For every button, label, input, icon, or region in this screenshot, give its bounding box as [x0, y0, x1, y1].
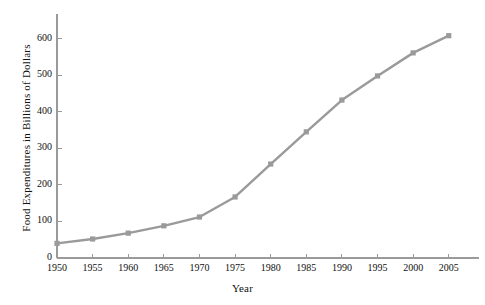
x-tick-label: 1990: [322, 262, 362, 273]
x-tick-label: 1975: [215, 262, 255, 273]
data-point-marker: [232, 194, 237, 199]
x-tick-label: 1970: [179, 262, 219, 273]
x-tick-label: 2005: [429, 262, 469, 273]
data-point-marker: [90, 236, 95, 241]
data-point-marker: [446, 33, 451, 38]
x-tick-label: 1950: [37, 262, 77, 273]
plot-area: [0, 0, 485, 305]
data-markers: [54, 33, 451, 246]
data-series: [57, 36, 449, 244]
x-tick-label: 1960: [108, 262, 148, 273]
data-point-marker: [339, 97, 344, 102]
tick-marks: [57, 39, 449, 258]
data-point-marker: [411, 50, 416, 55]
data-point-marker: [54, 241, 59, 246]
data-point-marker: [126, 231, 131, 236]
x-tick-label: 1995: [358, 262, 398, 273]
series-line: [57, 36, 449, 244]
data-point-marker: [375, 73, 380, 78]
x-tick-label: 1965: [144, 262, 184, 273]
data-point-marker: [304, 129, 309, 134]
y-axis-title: Food Expenditures in Billions of Dollars: [20, 8, 36, 268]
x-tick-label: 1985: [286, 262, 326, 273]
line-chart: 0100200300400500600 19501955196019651970…: [0, 0, 485, 305]
x-tick-label: 1955: [73, 262, 113, 273]
data-point-marker: [161, 223, 166, 228]
x-tick-label: 2000: [393, 262, 433, 273]
x-tick-label: 1980: [251, 262, 291, 273]
data-point-marker: [197, 214, 202, 219]
data-point-marker: [268, 161, 273, 166]
x-axis-title: Year: [0, 282, 485, 294]
